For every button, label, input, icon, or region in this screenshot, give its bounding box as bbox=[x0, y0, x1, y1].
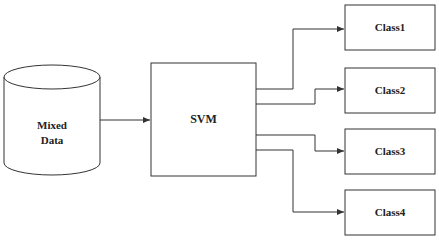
mixed-data-label-line1: Mixed bbox=[4, 118, 100, 133]
svm-label: SVM bbox=[151, 112, 256, 127]
class1-label: Class1 bbox=[345, 20, 435, 35]
class3-label: Class3 bbox=[345, 144, 435, 159]
connector-svm-class2 bbox=[256, 89, 344, 104]
connector-svm-class4 bbox=[256, 150, 344, 212]
class4-label: Class4 bbox=[345, 205, 435, 220]
connector-svm-class1 bbox=[256, 29, 344, 89]
mixed-data-label: Mixed Data bbox=[4, 118, 100, 148]
mixed-data-label-line2: Data bbox=[4, 133, 100, 148]
connector-svm-class3 bbox=[256, 135, 344, 151]
class2-label: Class2 bbox=[345, 83, 435, 98]
